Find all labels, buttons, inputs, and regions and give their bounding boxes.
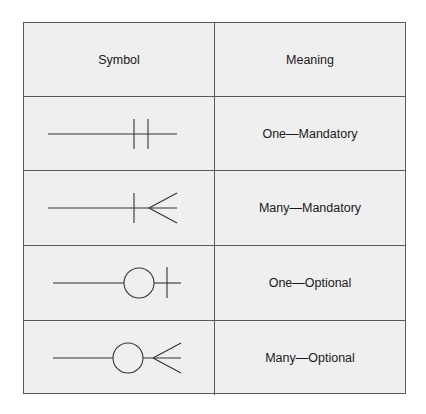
symbol-cell: [24, 321, 215, 395]
header-row: Symbol Meaning: [24, 23, 405, 97]
cardinality-notation-table: Symbol Meaning One—Mandatory: [23, 22, 406, 394]
header-meaning-cell: Meaning: [215, 23, 405, 96]
symbol-cell: [24, 246, 215, 320]
many-mandatory-icon: [24, 171, 215, 246]
header-symbol-cell: Symbol: [24, 23, 215, 96]
table-row: Many—Mandatory: [24, 171, 405, 246]
table-row: Many—Optional: [24, 321, 405, 395]
many-optional-icon: [24, 321, 215, 395]
table-row: One—Mandatory: [24, 97, 405, 171]
meaning-label: Many—Mandatory: [259, 201, 361, 215]
symbol-cell: [24, 171, 215, 245]
header-meaning: Meaning: [286, 53, 334, 67]
header-symbol: Symbol: [98, 53, 140, 67]
meaning-label: Many—Optional: [265, 351, 355, 365]
meaning-cell: One—Optional: [215, 246, 405, 320]
meaning-cell: One—Mandatory: [215, 97, 405, 170]
symbol-cell: [24, 97, 215, 170]
meaning-cell: Many—Optional: [215, 321, 405, 395]
meaning-cell: Many—Mandatory: [215, 171, 405, 245]
table-row: One—Optional: [24, 246, 405, 321]
one-mandatory-icon: [24, 97, 215, 171]
meaning-label: One—Optional: [269, 276, 352, 290]
meaning-label: One—Mandatory: [262, 127, 357, 141]
one-optional-icon: [24, 246, 215, 321]
